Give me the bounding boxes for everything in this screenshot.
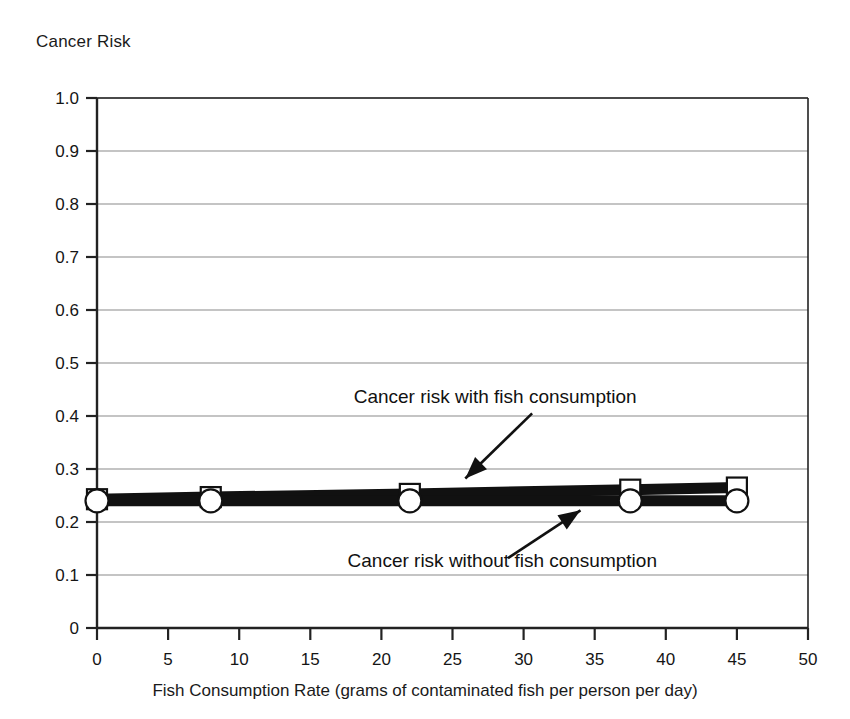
x-tick-label: 10 — [230, 650, 249, 669]
y-tick-label: 1.0 — [55, 89, 79, 108]
chart-svg: 00.10.20.30.40.50.60.70.80.91.0 05101520… — [0, 0, 850, 719]
data-point-circle — [86, 489, 109, 512]
gridlines-group — [97, 98, 808, 628]
x-tick-label: 45 — [727, 650, 746, 669]
annotation-arrow-head — [557, 510, 580, 529]
chart-plot-area: 00.10.20.30.40.50.60.70.80.91.0 05101520… — [0, 0, 850, 719]
y-tick-label: 0.4 — [55, 407, 79, 426]
x-tick-label: 50 — [799, 650, 818, 669]
y-tick-label: 0.6 — [55, 301, 79, 320]
chart-page: Cancer Risk 00.10.20.30.40.50.60.70.80.9… — [0, 0, 850, 719]
annotation-label: Cancer risk without fish consumption — [348, 550, 657, 571]
y-tick-group: 00.10.20.30.40.50.60.70.80.91.0 — [55, 89, 97, 638]
data-point-circle — [199, 489, 222, 512]
x-tick-group: 05101520253035404550 — [92, 628, 817, 669]
data-point-circle — [398, 489, 421, 512]
data-point-circle — [619, 489, 642, 512]
data-point-circle — [725, 489, 748, 512]
y-tick-label: 0.3 — [55, 460, 79, 479]
x-tick-label: 15 — [301, 650, 320, 669]
x-axis-title: Fish Consumption Rate (grams of contamin… — [0, 681, 850, 701]
y-tick-label: 0.5 — [55, 354, 79, 373]
y-tick-label: 0.1 — [55, 566, 79, 585]
annotation-label: Cancer risk with fish consumption — [354, 386, 637, 407]
x-tick-label: 30 — [514, 650, 533, 669]
x-tick-label: 20 — [372, 650, 391, 669]
y-tick-label: 0.9 — [55, 142, 79, 161]
y-tick-label: 0.8 — [55, 195, 79, 214]
y-tick-label: 0.7 — [55, 248, 79, 267]
y-tick-label: 0 — [70, 619, 79, 638]
x-tick-label: 25 — [443, 650, 462, 669]
x-tick-label: 35 — [585, 650, 604, 669]
y-tick-label: 0.2 — [55, 513, 79, 532]
annotations-group: Cancer risk with fish consumptionCancer … — [348, 386, 657, 571]
x-tick-label: 0 — [92, 650, 101, 669]
data-series-group — [86, 478, 749, 513]
x-tick-label: 40 — [656, 650, 675, 669]
x-tick-label: 5 — [163, 650, 172, 669]
